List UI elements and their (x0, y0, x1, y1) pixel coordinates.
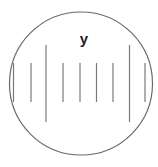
magnified-scale-diagram: y (0, 0, 158, 167)
tick-lines (14, 45, 146, 122)
axis-label-y: y (80, 30, 89, 47)
